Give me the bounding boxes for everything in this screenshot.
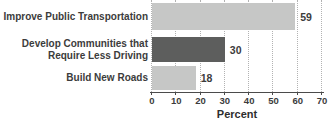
category-label-1: Develop Communities that Require Less Dr… <box>0 38 148 62</box>
survey-bar-chart: Percent 010203040506070Improve Public Tr… <box>0 0 334 127</box>
x-tick-label-50: 50 <box>263 95 283 106</box>
grid-line-70 <box>321 0 322 92</box>
x-tick-0 <box>151 93 152 95</box>
x-tick-label-40: 40 <box>239 95 259 106</box>
x-tick-40 <box>248 93 249 95</box>
x-tick-30 <box>224 93 225 95</box>
value-label-1: 30 <box>230 44 242 56</box>
x-tick-label-70: 70 <box>312 95 332 106</box>
x-tick-label-10: 10 <box>166 95 186 106</box>
category-label-2: Build New Roads <box>0 72 148 84</box>
x-tick-label-30: 30 <box>215 95 235 106</box>
x-tick-label-0: 0 <box>142 95 162 106</box>
value-label-0: 59 <box>300 11 312 23</box>
bar-2 <box>152 66 196 90</box>
category-label-0: Improve Public Transportation <box>0 11 148 23</box>
x-tick-70 <box>321 93 322 95</box>
bar-0 <box>152 3 295 30</box>
x-tick-20 <box>200 93 201 95</box>
value-label-2: 18 <box>201 72 213 84</box>
x-tick-label-60: 60 <box>288 95 308 106</box>
x-tick-label-20: 20 <box>191 95 211 106</box>
x-tick-60 <box>297 93 298 95</box>
x-tick-10 <box>175 93 176 95</box>
x-tick-50 <box>272 93 273 95</box>
grid-line-60 <box>297 0 298 92</box>
bar-1 <box>152 37 225 62</box>
x-axis-title: Percent <box>152 108 322 120</box>
